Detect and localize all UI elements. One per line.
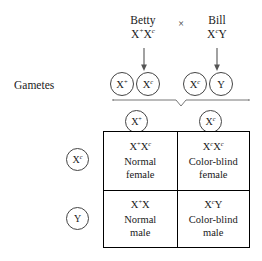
row-header-2-text: Y xyxy=(74,213,81,224)
mother-genotype: X+Xc xyxy=(112,28,174,41)
punnett-cell-1-line1: Normal xyxy=(124,155,156,168)
gamete-father-1-text: Xc xyxy=(190,79,200,90)
mother-allele2-sup: c xyxy=(152,27,155,35)
gamete-brace-icon xyxy=(112,98,250,110)
punnett-cell-3-line1: Normal xyxy=(124,213,156,226)
column-header-2-text: Xc xyxy=(206,116,216,127)
column-header-1: X+ xyxy=(125,110,148,133)
punnett-cell-1-genotype: X+Xc xyxy=(129,140,151,153)
gamete-mother-2-text: Xc xyxy=(143,79,153,90)
gametes-label: Gametes xyxy=(14,79,54,91)
punnett-square-diagram: Betty X+Xc × Bill XcY Gametes X+ Xc Xc Y xyxy=(0,0,262,261)
row-header-2: Y xyxy=(66,207,89,230)
row-header-1: Xc xyxy=(66,148,89,171)
punnett-cell-3: X+X Normal male xyxy=(104,190,177,248)
punnett-cell-4-line1: Color-blind xyxy=(189,213,238,226)
mother-allele2-base: X xyxy=(143,28,151,40)
father-allele2-base: Y xyxy=(219,28,227,40)
gamete-father-2: Y xyxy=(209,72,233,96)
punnett-cell-2-genotype: XcXc xyxy=(203,140,224,153)
punnett-cell-1-line2: female xyxy=(126,168,155,181)
gamete-mother-1-text: X+ xyxy=(116,79,127,90)
punnett-cell-4-line2: male xyxy=(203,226,223,239)
punnett-cell-4-genotype: XcY xyxy=(204,198,222,211)
father-name: Bill xyxy=(188,14,246,27)
punnett-cell-3-line2: male xyxy=(130,226,150,239)
mother-name: Betty xyxy=(112,14,174,27)
father-arrow-icon xyxy=(209,48,225,72)
row-header-1-text: Xc xyxy=(73,154,83,165)
gamete-mother-1: X+ xyxy=(110,72,134,96)
punnett-cell-2: XcXc Color-blind female xyxy=(177,132,250,190)
gamete-father-1: Xc xyxy=(183,72,207,96)
mother-arrow-icon xyxy=(136,48,152,72)
punnett-cell-4: XcY Color-blind male xyxy=(177,190,250,248)
gamete-mother-2: Xc xyxy=(136,72,160,96)
punnett-grid: X+Xc Normal female XcXc Color-blind fema… xyxy=(103,131,250,248)
mother-parent-block: Betty X+Xc xyxy=(112,14,174,41)
column-header-2: Xc xyxy=(199,110,222,133)
father-genotype: XcY xyxy=(188,28,246,41)
punnett-cell-3-genotype: X+X xyxy=(131,198,150,211)
father-parent-block: Bill XcY xyxy=(188,14,246,41)
cross-symbol: × xyxy=(174,18,188,29)
punnett-cell-1: X+Xc Normal female xyxy=(104,132,177,190)
column-header-1-text: X+ xyxy=(131,116,142,127)
punnett-cell-2-line1: Color-blind xyxy=(189,155,238,168)
gamete-father-2-text: Y xyxy=(217,79,225,90)
punnett-cell-2-line2: female xyxy=(199,168,228,181)
